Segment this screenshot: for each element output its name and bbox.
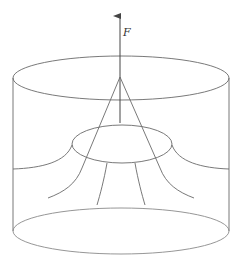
- cone-line-right: [120, 77, 160, 168]
- field-line-right-inner: [135, 163, 145, 205]
- field-line-left-outer: [13, 145, 72, 169]
- force-label: F: [122, 26, 131, 39]
- bottom-ellipse: [13, 208, 229, 254]
- field-line-left-mid: [48, 168, 82, 198]
- inner-ellipse: [72, 125, 172, 163]
- field-line-right-mid: [160, 168, 194, 198]
- top-ellipse: [13, 56, 229, 100]
- cylinder-force-diagram: F: [0, 0, 240, 262]
- cone-line-left: [82, 77, 120, 168]
- field-line-left-inner: [97, 163, 107, 205]
- field-line-right-outer: [172, 145, 229, 169]
